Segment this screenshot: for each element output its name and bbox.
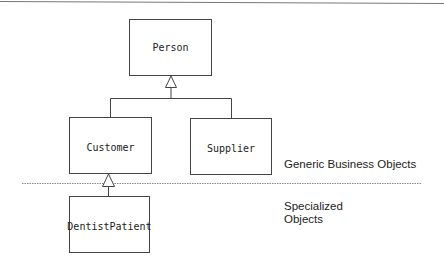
top-rule — [0, 2, 444, 4]
class-supplier-label: Supplier — [207, 143, 255, 154]
class-dentist-patient-label: DentistPatient — [67, 221, 151, 232]
class-supplier: Supplier — [191, 119, 272, 175]
class-customer: Customer — [70, 118, 152, 174]
generalization-arrow-person — [111, 76, 232, 118]
layer-label-generic: Generic Business Objects — [284, 158, 417, 170]
layer-label-specialized-line1: Specialized — [284, 200, 343, 212]
uml-diagram: Person Customer Supplier DentistPatient … — [0, 0, 444, 261]
layer-label-specialized-line2: Objects — [284, 213, 323, 225]
class-dentist-patient: DentistPatient — [67, 197, 151, 253]
class-person-label: Person — [152, 42, 188, 53]
class-customer-label: Customer — [86, 142, 134, 153]
class-person: Person — [130, 20, 212, 76]
generalization-arrow-customer — [103, 174, 115, 196]
